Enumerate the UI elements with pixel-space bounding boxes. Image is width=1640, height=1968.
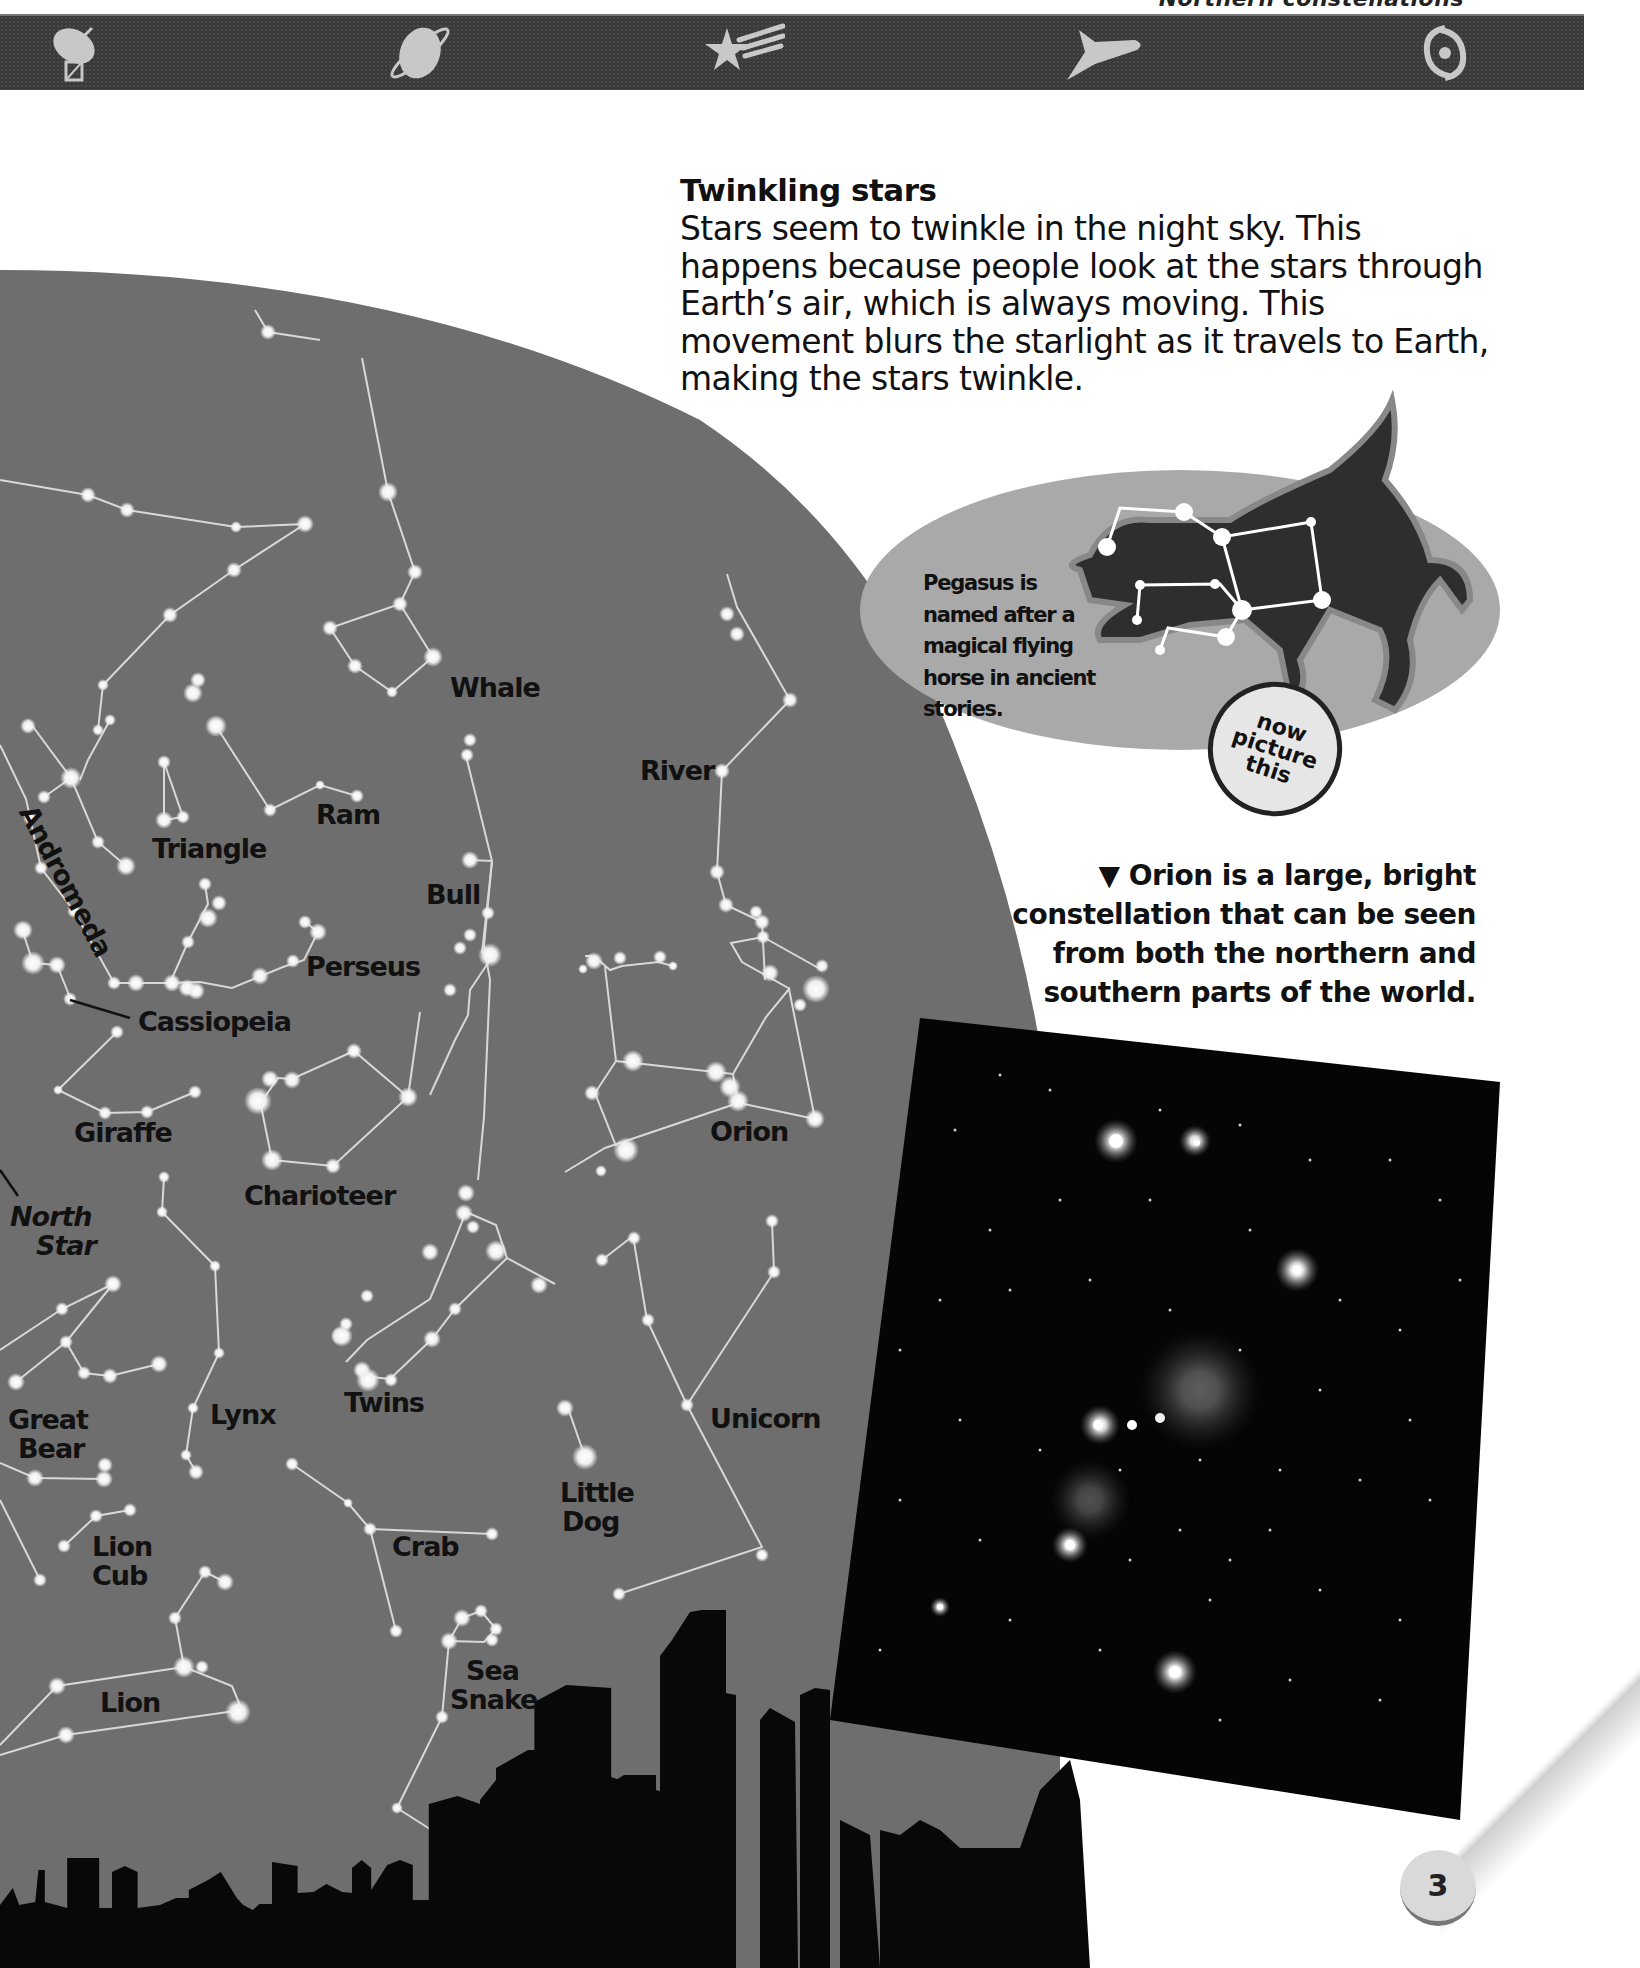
label-river: River <box>640 756 714 785</box>
label-sea-snake-line2: Snake <box>450 1685 537 1714</box>
twinkling-title: Twinkling stars <box>680 172 936 208</box>
label-great-bear: Great Bear <box>8 1405 88 1463</box>
label-north-star-line1: North <box>10 1202 96 1231</box>
label-bull: Bull <box>426 880 480 909</box>
orion-caption-text: Orion is a large, bright constellation t… <box>1012 859 1476 1009</box>
page-number: 3 <box>1400 1850 1476 1926</box>
label-perseus: Perseus <box>306 952 420 981</box>
label-unicorn: Unicorn <box>710 1404 821 1433</box>
label-lion: Lion <box>100 1688 160 1717</box>
label-ram: Ram <box>316 800 380 829</box>
label-triangle: Triangle <box>152 834 266 863</box>
label-charioteer: Charioteer <box>244 1181 395 1210</box>
label-sea-snake: Sea Snake <box>450 1656 537 1714</box>
label-giraffe: Giraffe <box>74 1118 172 1147</box>
label-great-bear-line1: Great <box>8 1405 88 1434</box>
triangle-down-icon: ▼ <box>1098 859 1119 892</box>
orion-photo <box>830 1018 1500 1820</box>
label-crab: Crab <box>392 1532 459 1561</box>
label-lion-cub: Lion Cub <box>92 1532 152 1590</box>
twinkling-body: Stars seem to twinkle in the night sky. … <box>680 210 1500 398</box>
label-little-dog: Little Dog <box>560 1478 634 1536</box>
orion-caption: ▼ Orion is a large, bright constellation… <box>956 856 1476 1012</box>
label-whale: Whale <box>450 673 540 702</box>
page-curl <box>1440 1580 1640 1968</box>
label-little-dog-line2: Dog <box>560 1507 634 1536</box>
label-north-star-line2: Star <box>10 1231 96 1260</box>
label-lion-cub-line1: Lion <box>92 1532 152 1561</box>
label-lion-cub-line2: Cub <box>92 1561 152 1590</box>
label-lynx: Lynx <box>210 1400 276 1429</box>
pegasus-caption: Pegasus is named after a magical flying … <box>923 568 1113 726</box>
label-north-star: North Star <box>10 1202 96 1260</box>
label-great-bear-line2: Bear <box>8 1434 88 1463</box>
label-orion: Orion <box>710 1117 788 1146</box>
label-little-dog-line1: Little <box>560 1478 634 1507</box>
label-cassiopeia: Cassiopeia <box>138 1007 291 1036</box>
label-sea-snake-line1: Sea <box>450 1656 537 1685</box>
label-twins: Twins <box>344 1388 424 1417</box>
